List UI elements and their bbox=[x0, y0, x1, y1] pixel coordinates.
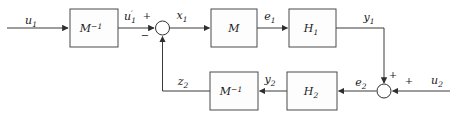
sign-sum2-plus-right: + bbox=[405, 75, 413, 86]
sign-sum2-plus-top: + bbox=[389, 69, 397, 80]
sign-sum1-plus: + bbox=[143, 10, 151, 21]
diagram-svg: M−1 M H1 M−1 H2 u1 u′1 x1 e1 y1 z2 y2 e2… bbox=[0, 0, 455, 120]
label-y2: y2 bbox=[264, 73, 276, 88]
label-z2: z2 bbox=[177, 75, 189, 90]
label-e1: e1 bbox=[264, 10, 275, 25]
signal-line-y1-feedback bbox=[336, 28, 384, 83]
label-y1: y1 bbox=[363, 11, 375, 26]
label-x1: x1 bbox=[177, 9, 188, 24]
label-u1: u1 bbox=[25, 14, 37, 29]
sum-junction-2 bbox=[377, 84, 391, 98]
block-diagram: M−1 M H1 M−1 H2 u1 u′1 x1 e1 y1 z2 y2 e2… bbox=[0, 0, 455, 120]
block-label-m: M bbox=[227, 22, 240, 35]
sign-sum1-minus: − bbox=[141, 30, 149, 41]
label-e2: e2 bbox=[355, 76, 367, 91]
sum-junction-1 bbox=[156, 21, 170, 35]
label-u1-prime: u′1 bbox=[124, 9, 136, 25]
label-u2: u2 bbox=[431, 74, 443, 89]
